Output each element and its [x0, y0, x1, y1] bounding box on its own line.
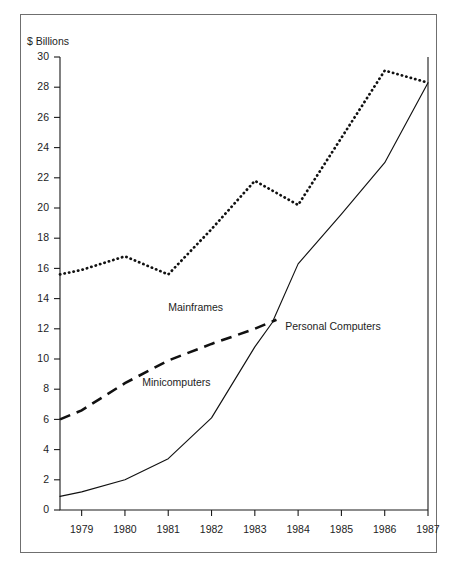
x-tick-label: 1987	[416, 523, 440, 535]
y-tick-label: 0	[43, 503, 49, 515]
series-label-minicomputers: Minicomputers	[142, 376, 210, 388]
y-tick-label: 2	[43, 473, 49, 485]
y-tick-label: 14	[37, 292, 49, 304]
y-tick-label: 12	[37, 322, 49, 334]
y-tick-label: 16	[37, 262, 49, 274]
series-labels: MainframesMinicomputersPersonal Computer…	[142, 301, 381, 389]
line-chart: 024681012141618202224262830 197919801981…	[0, 0, 460, 566]
y-axis-title: $ Billions	[27, 35, 69, 47]
axes	[60, 57, 428, 510]
y-tick-label: 22	[37, 171, 49, 183]
x-tick-label: 1985	[330, 523, 354, 535]
y-tick-label: 30	[37, 50, 49, 62]
y-axis-ticks: 024681012141618202224262830	[37, 50, 60, 515]
x-axis-ticks: 197919801981198219831984198519861987	[70, 510, 440, 535]
x-tick-label: 1981	[157, 523, 181, 535]
x-tick-label: 1983	[243, 523, 267, 535]
series-minicomputers	[60, 320, 276, 420]
y-tick-label: 4	[43, 443, 49, 455]
y-tick-label: 20	[37, 201, 49, 213]
x-tick-label: 1979	[70, 523, 94, 535]
y-tick-label: 18	[37, 231, 49, 243]
x-tick-label: 1986	[373, 523, 397, 535]
y-tick-label: 6	[43, 413, 49, 425]
y-tick-label: 8	[43, 382, 49, 394]
y-tick-label: 26	[37, 111, 49, 123]
x-tick-label: 1980	[113, 523, 137, 535]
series-mainframes	[60, 71, 428, 275]
series-label-mainframes: Mainframes	[168, 301, 223, 313]
data-series	[60, 71, 428, 497]
series-label-personal-computers: Personal Computers	[285, 320, 381, 332]
y-tick-label: 10	[37, 352, 49, 364]
figure-container: 024681012141618202224262830 197919801981…	[0, 0, 460, 566]
x-tick-label: 1984	[286, 523, 310, 535]
series-personal-computers	[60, 83, 428, 497]
x-tick-label: 1982	[200, 523, 224, 535]
y-tick-label: 28	[37, 80, 49, 92]
y-tick-label: 24	[37, 141, 49, 153]
